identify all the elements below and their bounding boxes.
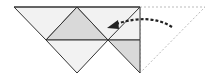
origami-fold-diagram (0, 0, 212, 81)
dashed-flap-outline (140, 7, 205, 73)
bottom-left-triangle (46, 40, 108, 73)
bottom-right-shaded-triangle (108, 40, 140, 73)
